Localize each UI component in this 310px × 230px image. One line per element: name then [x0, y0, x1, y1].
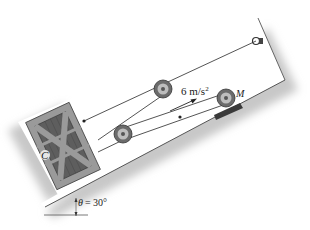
motor-label: M — [235, 88, 245, 99]
cable-point-marker — [178, 115, 181, 118]
pulley-lower — [114, 125, 132, 143]
pulley-upper — [154, 80, 172, 98]
angle-label: θ= 30° — [78, 197, 107, 208]
cable-point-marker — [82, 119, 85, 122]
pulley-incline-diagram: C M 6 m/s2 θ= 30° — [0, 0, 310, 230]
crate-label: C — [41, 149, 49, 161]
acceleration-label: 6 m/s2 — [181, 85, 209, 97]
